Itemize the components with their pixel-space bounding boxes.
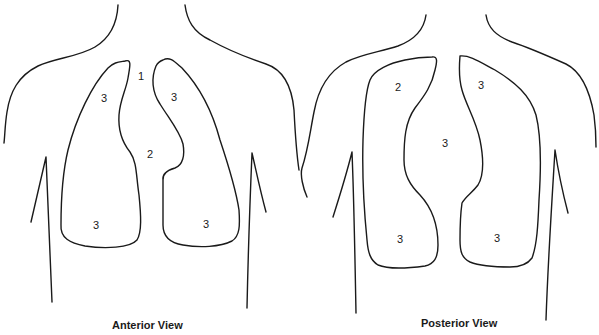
anterior-right-lung (61, 61, 141, 248)
anterior-label-2: 2 (147, 148, 153, 160)
anterior-left-arm-line (31, 157, 52, 302)
anterior-view: 1 2 3 3 3 3 (4, 5, 299, 308)
posterior-label-3-upper-left: 3 (442, 137, 448, 149)
posterior-left-arm-line (333, 152, 356, 313)
anterior-label-1: 1 (138, 70, 144, 82)
anterior-label-3-lower-right: 3 (93, 219, 99, 231)
anterior-right-arm-line (247, 153, 266, 308)
anterior-label-3-upper-left: 3 (171, 91, 177, 103)
posterior-label-2: 2 (395, 81, 401, 93)
chest-diagram: 1 2 3 3 3 3 2 3 3 3 3 (0, 0, 599, 335)
anterior-torso-left-outline (4, 5, 118, 143)
posterior-view: 2 3 3 3 3 (301, 15, 596, 320)
anterior-label-3-lower-left: 3 (203, 218, 209, 230)
anterior-view-caption: Anterior View (112, 319, 183, 331)
anterior-label-3-upper-right: 3 (101, 92, 107, 104)
posterior-view-caption: Posterior View (421, 317, 497, 329)
posterior-right-arm-line (546, 150, 568, 320)
anterior-left-lung (153, 59, 240, 247)
posterior-label-3-lower-right: 3 (494, 232, 500, 244)
posterior-label-3-lower-left: 3 (397, 233, 403, 245)
anterior-torso-right-outline (185, 5, 299, 170)
posterior-torso-left-outline (301, 15, 426, 197)
posterior-torso-right-outline (486, 15, 596, 147)
posterior-label-3-upper-right: 3 (478, 79, 484, 91)
